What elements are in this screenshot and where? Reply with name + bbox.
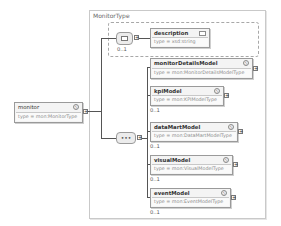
element-badge-icon: Ⓢ: [214, 88, 220, 94]
element-name: monitor: [18, 104, 39, 110]
element-visual-model[interactable]: visualModel Ⓢ type = mon:VisualModelType: [150, 155, 233, 175]
element-description[interactable]: description type = xsd:string: [150, 28, 210, 48]
connector-line: [101, 138, 116, 139]
element-badge-icon: Ⓢ: [223, 157, 229, 163]
connector-line: [101, 38, 102, 138]
element-badge-icon: Ⓢ: [243, 60, 249, 66]
element-monitor-details-model[interactable]: monitorDetailsModel Ⓢ type = mon:Monitor…: [150, 58, 253, 79]
element-type: type = mon:EventModelType: [152, 197, 229, 206]
cardinality-label: 0..1: [150, 107, 160, 113]
root-element-monitor[interactable]: monitor Ⓢ type = mon:MonitorType: [14, 102, 83, 123]
element-type: type = mon:MonitorType: [16, 112, 81, 121]
element-name: eventModel: [154, 190, 190, 196]
cardinality-label: 0..1: [150, 209, 160, 215]
element-name: dataMartModel: [154, 124, 200, 130]
element-type: type = mon:DataMartModelType: [152, 131, 236, 140]
choice-icon: [121, 36, 128, 41]
element-name: description: [154, 30, 188, 36]
element-type: type = mon:VisualModelType: [152, 164, 231, 173]
simple-type-icon: [199, 31, 206, 36]
expand-icon[interactable]: +: [253, 66, 258, 71]
element-name: kpiModel: [154, 88, 182, 94]
connector-line: [88, 111, 101, 112]
element-badge-icon: Ⓢ: [228, 124, 234, 130]
element-data-mart-model[interactable]: dataMartModel Ⓢ type = mon:DataMartModel…: [150, 122, 238, 142]
element-type: type = mon:MonitorDetailsModelType: [152, 68, 251, 77]
element-type: type = mon:KPIModelType: [152, 95, 222, 104]
choice-compositor[interactable]: [116, 32, 133, 45]
element-badge-icon: Ⓢ: [221, 190, 227, 196]
cardinality-label: 0..1: [117, 46, 127, 52]
element-type: type = xsd:string: [152, 37, 208, 46]
element-name: visualModel: [154, 157, 190, 163]
element-kpi-model[interactable]: kpiModel Ⓢ type = mon:KPIModelType: [150, 86, 224, 106]
element-badge-icon: Ⓢ: [73, 104, 79, 110]
expand-icon[interactable]: +: [233, 162, 238, 167]
sequence-compositor[interactable]: •••: [116, 132, 136, 144]
connector-line: [101, 38, 116, 39]
cardinality-label: 0..1: [150, 143, 160, 149]
cardinality-label: 0..1: [150, 176, 160, 182]
connector-line: [147, 67, 148, 198]
expand-icon[interactable]: +: [238, 129, 243, 134]
element-name: monitorDetailsModel: [154, 60, 218, 66]
complex-type-label: MonitorType: [93, 12, 130, 19]
connector-line: [139, 38, 150, 39]
expand-icon[interactable]: +: [224, 93, 229, 98]
expand-icon[interactable]: +: [231, 195, 236, 200]
element-event-model[interactable]: eventModel Ⓢ type = mon:EventModelType: [150, 188, 231, 208]
